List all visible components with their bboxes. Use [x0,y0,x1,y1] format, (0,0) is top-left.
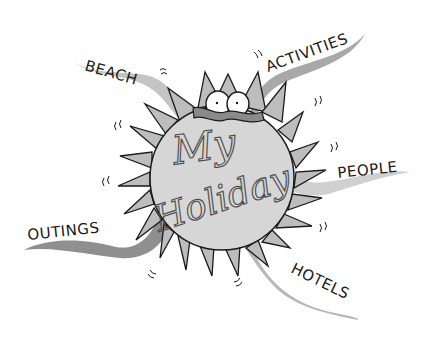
title-line-my: My [168,119,240,174]
right-pupil [236,102,238,104]
label-people: PEOPLE [337,158,399,182]
label-hotels: HOTELS [288,259,352,303]
label-outings: OUTINGS [27,219,101,244]
label-beach: BEACH [83,57,140,89]
holiday-sun-diagram: My Holiday BEACH ACTIVITIES PEOPLE HOTEL… [0,0,434,344]
left-pupil [216,102,218,104]
